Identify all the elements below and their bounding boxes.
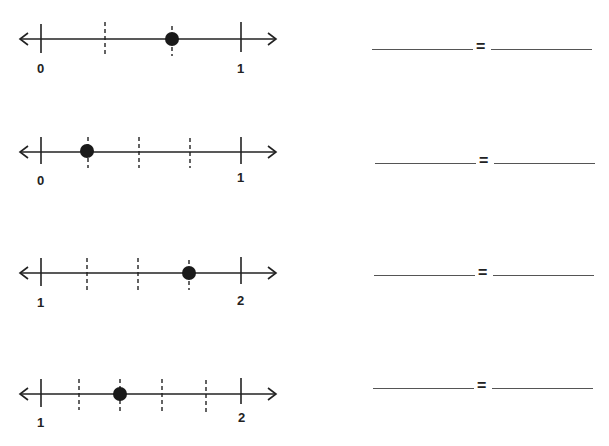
end-label: 1 (237, 61, 244, 76)
number-line-3 (0, 220, 300, 300)
equals-sign: = (478, 265, 487, 281)
equals-sign: = (479, 153, 488, 169)
point-marker (80, 144, 94, 158)
point-marker (113, 387, 127, 401)
start-label: 0 (37, 173, 44, 188)
answer-blank-left[interactable] (372, 49, 473, 50)
point-marker (165, 32, 179, 46)
answer-blank-right[interactable] (493, 275, 594, 276)
answer-blank-right[interactable] (491, 49, 592, 50)
end-label: 1 (237, 170, 244, 185)
start-label: 1 (37, 415, 44, 430)
end-label: 2 (237, 293, 244, 308)
point-marker (182, 266, 196, 280)
answer-blank-right[interactable] (494, 163, 595, 164)
start-label: 0 (37, 61, 44, 76)
problem-3: 1 2 = (0, 220, 609, 330)
answer-blank-right[interactable] (492, 388, 593, 389)
problem-2: 0 1 = (0, 110, 609, 220)
number-line-4 (0, 336, 300, 436)
problem-4: 1 2 = (0, 336, 609, 446)
answer-blank-left[interactable] (375, 163, 476, 164)
problem-1: 0 1 = (0, 0, 609, 110)
number-line-2 (0, 110, 300, 190)
equals-sign: = (477, 378, 486, 394)
equals-sign: = (476, 39, 485, 55)
answer-blank-left[interactable] (374, 275, 475, 276)
start-label: 1 (37, 295, 44, 310)
answer-blank-left[interactable] (373, 388, 474, 389)
end-label: 2 (238, 410, 245, 425)
number-line-1 (0, 0, 300, 80)
